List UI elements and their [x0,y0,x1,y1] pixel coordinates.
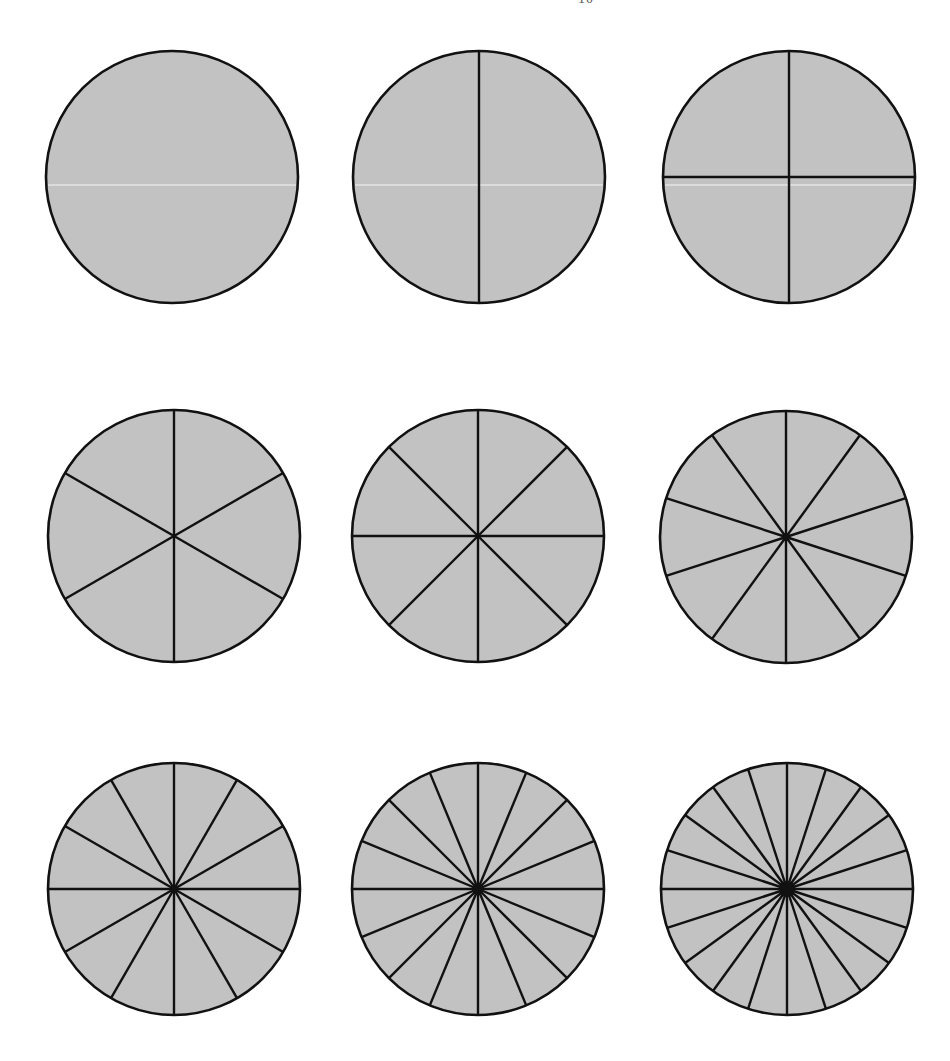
center-hub [779,881,795,897]
fraction-circles-diagram [0,0,950,1061]
circle-twentieths [661,763,913,1015]
circle-whole [46,51,298,303]
circle-twelfths [48,763,300,1015]
circle-eighths [352,410,604,662]
circle-halves [353,51,605,303]
center-hub [170,885,178,893]
center-hub [472,883,484,895]
fraction-circles-grid [46,51,915,1015]
circle-sixths [48,410,300,662]
circle-sixteenths [352,763,604,1015]
circle-quarters [663,51,915,303]
center-hub [782,533,790,541]
circle-tenths [660,411,912,663]
